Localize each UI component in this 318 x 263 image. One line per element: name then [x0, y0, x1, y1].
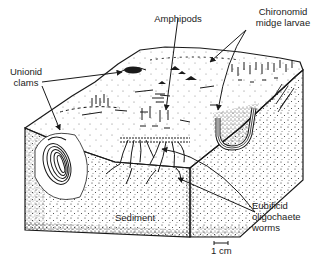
label-scale-text: 1 cm	[211, 245, 232, 256]
label-chironomid-line2: midge larvae	[249, 17, 317, 28]
label-unionid-line1: Unionid	[6, 66, 46, 77]
label-tubificid-line2: oligochaete	[252, 211, 301, 222]
label-tubificid: Eubificid oligochaete worms	[252, 200, 301, 233]
label-scale: 1 cm	[211, 245, 232, 256]
label-tubificid-line1: Eubificid	[252, 200, 301, 211]
label-tubificid-line3: worms	[252, 222, 301, 233]
label-sediment-line1: Sediment	[115, 212, 155, 223]
label-amphipods: Amphipods	[148, 13, 208, 24]
label-sediment: Sediment	[115, 212, 155, 223]
label-chironomid-line1: Chironomid	[249, 6, 317, 17]
label-unionid-line2: clams	[6, 77, 46, 88]
label-unionid: Unionid clams	[6, 66, 46, 88]
label-amphipods-line1: Amphipods	[154, 13, 202, 24]
label-chironomid: Chironomid midge larvae	[249, 6, 317, 28]
